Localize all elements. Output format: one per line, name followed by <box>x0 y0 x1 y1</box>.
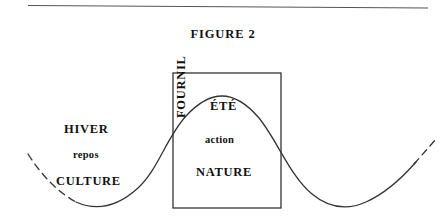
label-nature: NATURE <box>196 166 252 179</box>
cycle-curve-solid <box>76 96 416 207</box>
label-ete: ÉTÉ <box>210 100 237 113</box>
label-fournil-vertical: FOURNIL <box>175 55 188 118</box>
label-culture: CULTURE <box>56 175 121 188</box>
label-hiver: HIVER <box>64 123 108 136</box>
label-repos: repos <box>73 150 99 161</box>
label-action: action <box>205 135 234 146</box>
figure-page: FIGURE 2 HIVER repos CULTURE ÉTÉ action … <box>0 0 446 222</box>
cycle-curve-right-dashed <box>414 139 436 164</box>
